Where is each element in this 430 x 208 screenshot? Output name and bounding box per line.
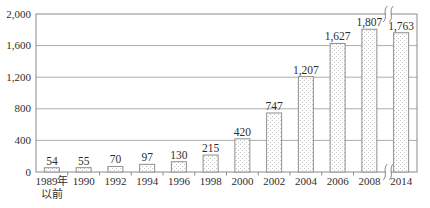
bar-value-label: 54 [46, 155, 58, 167]
bar [267, 113, 282, 172]
x-axis-label: 2006 [327, 175, 350, 187]
bar-value-label: 1,207 [293, 64, 319, 77]
x-axis-label: 2014 [390, 175, 413, 187]
bar [298, 77, 313, 172]
bar [76, 168, 91, 172]
bar-value-label: 70 [110, 153, 122, 165]
y-axis-label: 1,200 [6, 71, 31, 83]
bar-value-label: 130 [170, 149, 188, 161]
chart-figure: 541989年以前5519907019929719941301996215199… [0, 0, 430, 208]
x-axis-label: 2002 [263, 175, 285, 187]
x-axis-label: 1990 [73, 175, 96, 187]
y-axis-label: 0 [26, 166, 32, 178]
bar [235, 139, 250, 172]
x-axis-label: 以前 [41, 187, 63, 200]
bar [330, 43, 345, 172]
bar-value-label: 747 [266, 100, 284, 112]
y-axis-label: 400 [15, 134, 32, 146]
bar-value-label: 55 [78, 155, 90, 167]
bar-value-label: 1,763 [388, 20, 414, 33]
x-axis-label: 2000 [231, 175, 254, 187]
x-axis-label: 1998 [200, 175, 223, 187]
x-axis-label: 2004 [295, 175, 318, 187]
bar [203, 155, 218, 172]
y-axis-label: 800 [15, 102, 32, 114]
bar [140, 164, 155, 172]
bar-value-label: 420 [234, 126, 252, 138]
bar [44, 168, 59, 172]
bar-value-label: 215 [202, 142, 220, 154]
bar [394, 33, 409, 172]
x-axis-label: 1994 [136, 175, 159, 187]
bar [362, 29, 377, 172]
x-axis-label: 1992 [104, 175, 126, 187]
bar-chart-svg: 541989年以前5519907019929719941301996215199… [0, 0, 430, 208]
bar-value-label: 1,627 [325, 30, 351, 43]
y-axis-label: 2,000 [6, 8, 31, 20]
bar [171, 162, 186, 172]
bar-value-label: 1,807 [356, 16, 382, 29]
x-axis-label: 1996 [168, 175, 191, 187]
x-axis-label: 2008 [358, 175, 381, 187]
bar-value-label: 97 [141, 151, 153, 163]
x-axis-label: 1989年 [35, 174, 68, 187]
bar [108, 166, 123, 172]
y-axis-label: 1,600 [6, 39, 31, 51]
